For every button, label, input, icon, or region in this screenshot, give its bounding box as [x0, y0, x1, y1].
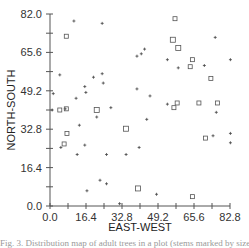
square-marker: [172, 106, 176, 110]
square-marker: [173, 17, 177, 21]
figure-caption: Fig. 3. Distribution map of adult trees …: [0, 238, 249, 248]
plus-marker: [145, 118, 148, 121]
plus-marker: [72, 20, 75, 23]
square-marker: [190, 58, 194, 62]
plus-marker: [140, 52, 143, 55]
plus-marker: [135, 55, 138, 58]
plus-marker: [52, 92, 55, 95]
plus-marker: [78, 124, 81, 127]
plus-marker: [118, 202, 121, 205]
plus-marker: [215, 111, 218, 114]
plus-marker: [143, 48, 146, 51]
square-marker: [62, 142, 66, 146]
plus-marker: [166, 58, 169, 61]
plus-marker: [229, 141, 232, 144]
plus-marker: [95, 116, 98, 119]
x-tick-label: 82.8: [219, 211, 240, 223]
plus-marker: [101, 72, 104, 75]
plus-marker: [203, 64, 206, 67]
plus-marker: [51, 109, 54, 112]
plus-marker: [138, 146, 141, 149]
plus-marker: [75, 97, 78, 100]
plus-marker: [76, 153, 79, 156]
x-tick-label: 0.0: [42, 211, 57, 223]
square-marker: [94, 108, 99, 113]
square-marker: [209, 76, 213, 80]
plus-marker: [229, 132, 232, 135]
x-tick-label: 16.4: [75, 211, 96, 223]
x-tick-label: 65.6: [183, 211, 204, 223]
square-marker: [124, 126, 129, 131]
plus-marker: [92, 76, 95, 79]
plus-marker: [166, 103, 169, 106]
square-marker: [170, 37, 175, 42]
plus-marker: [58, 73, 61, 76]
y-tick-label: 82.0: [21, 8, 42, 20]
y-tick-label: 32.8: [21, 123, 42, 135]
square-marker: [58, 108, 62, 112]
plus-marker: [101, 22, 104, 25]
y-tick-label: 0.0: [27, 200, 42, 212]
plus-marker: [212, 134, 215, 137]
plus-marker: [109, 106, 112, 109]
square-marker: [203, 136, 207, 140]
plus-marker: [85, 189, 88, 192]
y-tick-label: 49.2: [21, 85, 42, 97]
square-marker: [175, 101, 179, 105]
plus-marker: [105, 182, 108, 185]
y-tick-label: 65.6: [21, 46, 42, 58]
plus-marker: [155, 193, 158, 196]
square-marker: [188, 65, 192, 69]
plus-marker: [125, 153, 128, 156]
plus-marker: [83, 144, 86, 147]
plus-marker: [105, 153, 108, 156]
plus-marker: [135, 87, 138, 90]
data-points: [51, 17, 232, 205]
plus-marker: [229, 58, 232, 61]
square-marker: [176, 45, 181, 50]
y-tick-label: 16.4: [21, 162, 42, 174]
plus-marker: [214, 36, 217, 39]
plus-marker: [84, 91, 87, 94]
plus-marker: [102, 82, 105, 85]
plus-marker: [177, 66, 180, 69]
plus-marker: [59, 146, 62, 149]
square-marker: [65, 131, 69, 135]
plus-marker: [83, 85, 86, 88]
square-marker: [64, 34, 68, 38]
square-marker: [190, 195, 194, 199]
axes: 0.016.432.849.265.682.80.016.432.849.265…: [21, 8, 241, 223]
square-marker: [215, 101, 219, 105]
plus-marker: [99, 179, 102, 182]
y-axis-title: NORTH-SOUTH: [5, 69, 17, 150]
x-axis-title: EAST-WEST: [108, 221, 172, 233]
square-marker: [197, 101, 201, 105]
square-marker: [136, 186, 141, 191]
plus-marker: [149, 94, 152, 97]
